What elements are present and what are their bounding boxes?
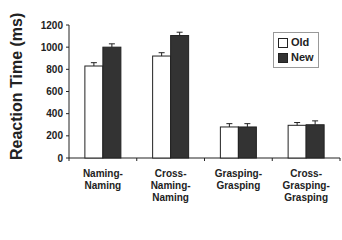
y-tick-label: 200 xyxy=(46,130,63,141)
legend-item-new: New xyxy=(278,50,314,65)
category-label: Cross- Naming- Naming xyxy=(141,168,201,204)
bar-old xyxy=(288,125,306,158)
legend-item-old: Old xyxy=(278,35,314,50)
legend: Old New xyxy=(273,32,319,68)
y-tick-label: 600 xyxy=(46,86,63,97)
category-label: Cross- Grasping- Grasping xyxy=(276,168,336,204)
bar-new xyxy=(171,36,189,158)
bar-new xyxy=(103,47,121,158)
y-tick-label: 0 xyxy=(57,153,63,164)
bar-old xyxy=(85,66,103,158)
legend-label-old: Old xyxy=(291,35,309,50)
bar-old xyxy=(220,127,238,158)
bar-new xyxy=(238,127,256,158)
category-label: Grasping- Grasping xyxy=(208,168,268,192)
y-tick-label: 1000 xyxy=(41,42,64,53)
old-swatch-icon xyxy=(278,38,288,48)
y-tick-label: 1200 xyxy=(41,20,64,31)
category-label: Naming- Naming xyxy=(73,168,133,192)
legend-label-new: New xyxy=(291,50,314,65)
bar-new xyxy=(306,125,324,158)
y-tick-label: 400 xyxy=(46,108,63,119)
new-swatch-icon xyxy=(278,53,288,63)
y-tick-label: 800 xyxy=(46,64,63,75)
bar-old xyxy=(153,56,171,158)
